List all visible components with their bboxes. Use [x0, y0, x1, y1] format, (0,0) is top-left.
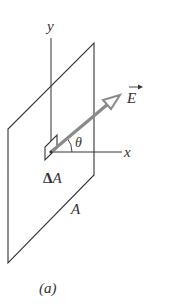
- vector-arrow-over-e-head: [138, 85, 143, 90]
- x-axis-label: x: [123, 144, 131, 160]
- y-axis-label: y: [45, 18, 54, 34]
- figure-caption: (a): [39, 280, 57, 297]
- surface-area-label: A: [70, 201, 81, 217]
- field-vector-label: E: [126, 90, 136, 106]
- area-element-label: ΔA: [43, 170, 62, 186]
- angle-label: θ: [75, 135, 82, 150]
- origin-dot: [49, 150, 52, 153]
- flux-diagram: y x E θ ΔA A (a): [0, 0, 179, 304]
- angle-arc: [67, 138, 72, 152]
